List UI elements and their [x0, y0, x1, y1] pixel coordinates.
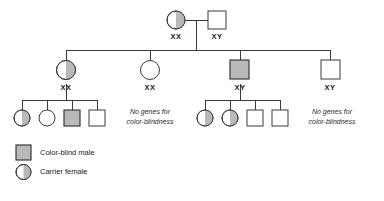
- symbol-g2-child-4-normal-male: [321, 60, 340, 79]
- genotype-label-g2-child-4: XY: [325, 83, 336, 92]
- pedigree-figure: XX XY XX XX XY XY No genes for color-bli…: [0, 0, 384, 201]
- legend-carrier-female-swatch: [16, 165, 31, 180]
- symbol-g2-child-1-carrier-female: [57, 61, 76, 80]
- annotation-no-genes-left-line1: No genes for: [127, 107, 174, 117]
- symbol-g3r-child-3-normal-male: [247, 110, 263, 126]
- symbol-g3r-child-1-carrier-female: [197, 110, 213, 126]
- symbol-g3l-child-3-color-blind-male: [64, 110, 80, 126]
- generation-3-left-symbols: [14, 110, 105, 126]
- symbol-g3l-child-2-normal-female: [39, 110, 55, 126]
- symbol-g2-child-3-color-blind-male: [230, 60, 249, 79]
- symbol-g1-father-normal-male: [208, 11, 226, 29]
- symbol-g1-mother-carrier-female: [167, 11, 185, 29]
- symbol-g3r-child-2-carrier-female: [222, 110, 238, 126]
- legend-label-carrier-female: Carrier female: [40, 167, 88, 177]
- genotype-label-g2-child-2: XX: [145, 83, 156, 92]
- legend-color-blind-male-swatch: [16, 145, 31, 160]
- genotype-label-g2-child-1: XX: [61, 83, 72, 92]
- annotation-no-genes-right: No genes for color-blindness: [309, 107, 356, 126]
- genotype-label-g1-father: XY: [212, 32, 223, 41]
- symbol-g3l-child-1-carrier-female: [14, 110, 30, 126]
- symbol-g3l-child-4-normal-male: [89, 110, 105, 126]
- genotype-label-g1-mother: XX: [171, 32, 182, 41]
- generation-3-right-symbols: [197, 110, 288, 126]
- annotation-no-genes-left-line2: color-blindness: [127, 117, 174, 127]
- symbol-g2-child-2-normal-female: [141, 61, 160, 80]
- annotation-no-genes-right-line1: No genes for: [309, 107, 356, 117]
- legend-symbols: [16, 145, 31, 180]
- annotation-no-genes-left: No genes for color-blindness: [127, 107, 174, 126]
- annotation-no-genes-right-line2: color-blindness: [309, 117, 356, 127]
- genotype-label-g2-child-3: XY: [235, 83, 246, 92]
- generation-2-symbols: [57, 60, 341, 80]
- legend-label-color-blind-male: Color-blind male: [40, 148, 95, 158]
- symbol-g3r-child-4-normal-male: [272, 110, 288, 126]
